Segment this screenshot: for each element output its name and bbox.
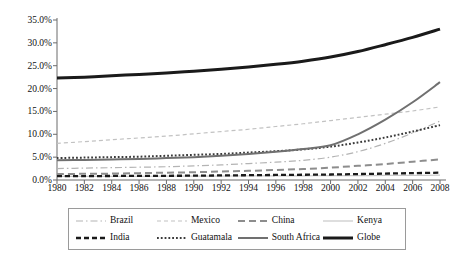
legend-item-brazil: Brazil (73, 212, 154, 229)
legend-swatch-south-africa (238, 233, 268, 243)
legend-item-china: China (235, 212, 320, 229)
data-series-group (57, 29, 440, 176)
legend-label-brazil: Brazil (110, 215, 133, 226)
legend-label-south-africa: South Africa (272, 232, 320, 243)
legend-label-guatamala: Guatamala (191, 232, 232, 243)
line-chart-plot (0, 0, 472, 200)
legend-swatch-globe (323, 233, 353, 243)
x-axis-tick-label: 1996 (266, 183, 285, 193)
legend-label-mexico: Mexico (191, 215, 220, 226)
chart-legend: BrazilMexicoChinaKenyaIndiaGuatamalaSout… (68, 208, 406, 250)
legend-item-kenya: Kenya (320, 212, 401, 229)
legend-item-guatamala: Guatamala (154, 229, 235, 246)
x-axis-tick-label: 1998 (294, 183, 313, 193)
x-axis-tick-label: 1986 (130, 183, 149, 193)
legend-swatch-mexico (157, 216, 187, 226)
legend-item-mexico: Mexico (154, 212, 235, 229)
legend-label-china: China (272, 215, 295, 226)
legend-swatch-brazil (76, 216, 106, 226)
series-line-globe (57, 29, 440, 78)
x-axis-tick-label: 1990 (184, 183, 203, 193)
x-axis-tick-label: 2008 (431, 183, 450, 193)
x-axis-tick-label: 1988 (157, 183, 176, 193)
series-line-brazil (57, 121, 440, 169)
legend-grid: BrazilMexicoChinaKenyaIndiaGuatamalaSout… (69, 209, 405, 249)
x-axis-tick-label: 1994 (239, 183, 258, 193)
legend-swatch-india (76, 233, 106, 243)
x-axis-tick-label: 1992 (212, 183, 231, 193)
legend-item-india: India (73, 229, 154, 246)
x-axis-tick-label: 1984 (102, 183, 121, 193)
axis-lines (57, 18, 446, 180)
legend-swatch-guatamala (157, 233, 187, 243)
legend-label-globe: Globe (357, 232, 380, 243)
x-axis-tick-label: 2004 (376, 183, 395, 193)
legend-label-kenya: Kenya (357, 215, 382, 226)
x-axis-tick-label: 2002 (348, 183, 367, 193)
legend-swatch-kenya (323, 216, 353, 226)
x-axis-tick-label: 1980 (48, 183, 67, 193)
chart-figure: 0.0%5.0%10.0%15.0%20.0%25.0%30.0%35.0% 1… (0, 0, 472, 263)
x-axis-tick-label: 2006 (403, 183, 422, 193)
legend-swatch-china (238, 216, 268, 226)
legend-item-globe: Globe (320, 229, 401, 246)
legend-label-india: India (110, 232, 130, 243)
series-line-mexico (57, 107, 440, 144)
legend-item-south-africa: South Africa (235, 229, 320, 246)
x-axis-tick-label: 1982 (75, 183, 94, 193)
series-line-south-africa (57, 82, 440, 160)
series-line-china (57, 159, 440, 174)
x-axis-tick-label: 2000 (321, 183, 340, 193)
